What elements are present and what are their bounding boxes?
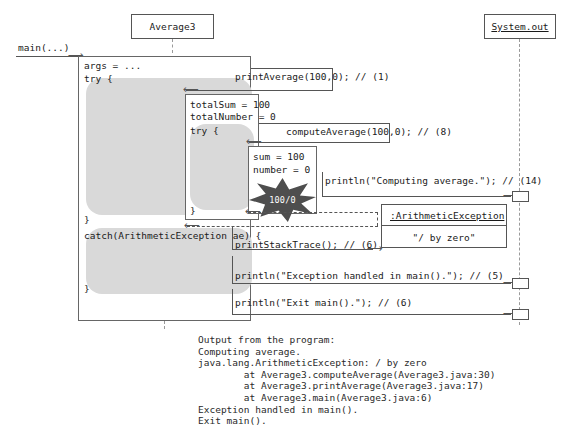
- exception-return-inner: [248, 212, 378, 213]
- exception-object-header: :ArithmeticException: [382, 205, 506, 226]
- participant-average3-label: Average3: [150, 21, 196, 32]
- message-print-average-label: printAverage(100,0); // (1): [235, 71, 389, 82]
- sequence-diagram-canvas: Average3 System.out main(...) ⟶ args = .…: [0, 0, 561, 442]
- compute-average-var1-label: sum = 100: [253, 151, 304, 162]
- exception-return-inner-arrowhead: ⟵: [245, 208, 261, 215]
- lifeline-average3: [172, 39, 173, 53]
- message-println-computing-label: println("Computing average."); // (14): [325, 175, 542, 186]
- message-print-average-back: [186, 90, 333, 91]
- message-println-exit-line: [232, 314, 511, 315]
- message-compute-average-back: [249, 142, 390, 143]
- message-println-handled-line: [232, 283, 511, 284]
- message-print-stack-trace-left: [232, 226, 233, 250]
- message-println-exit-left: [232, 289, 233, 315]
- entry-message-label: main(...): [18, 42, 69, 53]
- main-catch-close-label: }: [84, 283, 90, 294]
- exception-return-outer-arrowhead: ⟵: [184, 222, 200, 229]
- message-compute-average-down: [389, 123, 390, 142]
- print-average-try-region: [190, 124, 254, 210]
- message-print-average-line: [251, 68, 333, 69]
- exception-object-value: "/ by zero": [413, 232, 476, 243]
- message-compute-average-arrowhead: ⟵: [246, 138, 262, 145]
- message-print-average-arrowhead: ⟵: [183, 86, 199, 93]
- message-println-computing-left: [322, 172, 323, 197]
- exception-object-body: "/ by zero": [382, 226, 506, 248]
- message-println-exit-label: println("Exit main()."); // (6): [235, 297, 412, 308]
- message-println-handled-left: [232, 256, 233, 284]
- participant-system-out-label: System.out: [491, 21, 548, 32]
- lifeline-main-end: [164, 321, 165, 329]
- exception-star-label: 100/0: [269, 195, 296, 205]
- message-compute-average-line: [259, 123, 390, 124]
- print-average-var2-label: totalNumber = 0: [190, 111, 276, 122]
- activation-system-out-3: [512, 309, 529, 320]
- exception-return-inner-drop: [377, 212, 378, 226]
- print-average-var1-label: totalSum = 100: [190, 99, 270, 110]
- activation-system-out-1: [512, 191, 529, 202]
- message-print-average-down: [332, 68, 333, 90]
- print-average-try-close-label: }: [190, 205, 196, 216]
- main-args-label: args = ...: [84, 60, 141, 71]
- message-print-stack-trace-line: [232, 249, 373, 250]
- participant-average3: Average3: [131, 14, 214, 39]
- exception-return-outer: [187, 226, 378, 227]
- compute-average-var2-label: number = 0: [253, 164, 310, 175]
- message-compute-average-label: computeAverage(100,0); // (8): [286, 126, 452, 137]
- main-try-close-label: }: [84, 214, 90, 225]
- participant-system-out: System.out: [484, 14, 556, 39]
- message-println-computing-line: [322, 196, 511, 197]
- main-try-open-label: try {: [84, 73, 113, 84]
- message-println-handled-label: println("Exception handled in main().");…: [235, 270, 504, 281]
- exception-object-box: :ArithmeticException "/ by zero": [381, 204, 507, 248]
- exception-object-name: :ArithmeticException: [390, 210, 504, 221]
- print-average-try-open-label: try {: [190, 125, 219, 136]
- message-print-stack-trace-arrowhead: ⟶: [367, 245, 383, 252]
- program-output-text: Output from the program: Computing avera…: [198, 334, 495, 427]
- activation-system-out-2: [512, 278, 529, 289]
